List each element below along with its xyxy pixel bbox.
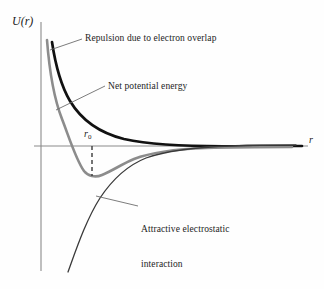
- annotation-attractive-line2: interaction: [141, 259, 230, 271]
- x-axis-label: r: [309, 134, 313, 145]
- potential-energy-diagram: U(r) r r0 Repulsion due to electron over…: [0, 0, 324, 289]
- r0-label-subscript: 0: [88, 133, 92, 141]
- leader-line-repulsion: [50, 39, 82, 50]
- annotation-attractive-line1: Attractive electrostatic: [141, 224, 230, 236]
- annotation-attractive: Attractive electrostatic interaction: [141, 201, 230, 289]
- annotation-repulsion: Repulsion due to electron overlap: [85, 33, 217, 45]
- net-potential-curve: [47, 40, 292, 176]
- y-axis-label: U(r): [12, 14, 33, 29]
- leader-line-attractive: [96, 196, 138, 206]
- r0-label: r0: [84, 128, 91, 141]
- annotation-net-potential: Net potential energy: [108, 81, 187, 93]
